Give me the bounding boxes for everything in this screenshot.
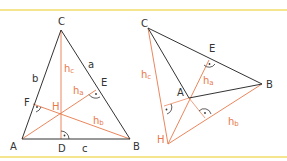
right-angle-mark-e xyxy=(89,95,100,99)
extension-ba xyxy=(164,98,189,106)
extension-ca xyxy=(189,98,205,118)
label-right-a: A xyxy=(177,87,184,98)
label-left-c: C xyxy=(58,16,65,27)
right-angle-dot-d xyxy=(64,135,66,137)
label-right-hb: hb xyxy=(228,116,239,128)
label-right-e: E xyxy=(209,43,215,54)
right-angle-dot-e xyxy=(95,93,97,95)
label-right-ha: ha xyxy=(203,75,214,87)
label-left-hc: hc xyxy=(64,63,74,75)
right-angle-dot-e-right xyxy=(209,63,211,65)
left-altitude-ha xyxy=(22,90,96,139)
label-right-c: C xyxy=(141,18,148,29)
label-left-side-b: b xyxy=(32,73,38,84)
label-left-e: E xyxy=(101,77,107,88)
label-left-d: D xyxy=(58,143,66,154)
right-angle-dot-d-right xyxy=(204,112,206,114)
label-right-hc: hc xyxy=(141,69,151,81)
label-left-hb: hb xyxy=(93,115,104,127)
label-left-f: F xyxy=(24,97,30,108)
label-left-h: H xyxy=(52,101,60,112)
label-right-h: H xyxy=(157,134,165,145)
right-triangle: C B A E H hc ha hb xyxy=(141,18,273,145)
label-left-a: A xyxy=(10,141,17,152)
label-left-side-c: c xyxy=(82,143,88,154)
right-triangle-sides xyxy=(148,28,262,98)
label-left-b: B xyxy=(133,141,140,152)
label-left-side-a: a xyxy=(88,59,94,70)
label-right-b: B xyxy=(266,79,273,90)
right-angle-mark-f-right xyxy=(167,104,172,114)
right-angle-dot-f xyxy=(36,106,38,108)
right-angle-dot-f-right xyxy=(166,109,168,111)
label-left-ha: ha xyxy=(73,85,84,97)
left-altitude-hb xyxy=(33,104,130,139)
altitudes-diagram: C A B D E F c b a H hc ha hb C B A E xyxy=(0,0,287,161)
left-triangle: C A B D E F c b a H hc ha hb xyxy=(10,16,140,154)
